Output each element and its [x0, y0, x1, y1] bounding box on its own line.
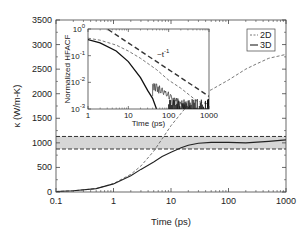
legend: 2D3D	[247, 29, 275, 51]
x-tick-label: 0.1	[50, 196, 63, 206]
inset-y-tick-label: 100	[73, 23, 86, 34]
legend-label-2d: 2D	[260, 30, 272, 40]
x-tick-label: 1000	[276, 196, 296, 206]
x-axis-title: Time (ps)	[151, 216, 191, 227]
inset-y-tick-label: 10-3	[71, 103, 86, 114]
x-tick-label: 100	[221, 196, 236, 206]
inset-y-axis-title: Normalized HFACF	[63, 34, 72, 103]
y-tick-label: 2000	[32, 89, 52, 99]
y-tick-label: 500	[37, 162, 52, 172]
y-tick-label: 0	[47, 187, 52, 197]
inset-x-axis-title: Time (ps)	[132, 119, 166, 128]
inset-x-tick-label: 1000	[200, 111, 218, 120]
y-axis-title: κ (W/m-K)	[11, 85, 22, 128]
y-tick-label: 3000	[32, 40, 52, 50]
x-tick-label: 10	[166, 196, 176, 206]
chart: 0.11101001000050010001500200025003000350…	[0, 0, 308, 233]
x-tick-label: 1	[111, 196, 116, 206]
inset-frame	[88, 29, 209, 109]
y-tick-label: 1500	[32, 113, 52, 123]
inset-y-tick-label: 10-2	[71, 76, 86, 87]
inset-y-tick-label: 10-1	[71, 50, 86, 61]
y-tick-label: 2500	[32, 64, 52, 74]
legend-label-3d: 3D	[260, 40, 272, 50]
inset-x-tick-label: 1	[86, 111, 91, 120]
inset-plot: 110100100010-310-210-1100Normalized HFAC…	[63, 16, 218, 128]
y-tick-label: 1000	[32, 138, 52, 148]
y-tick-label: 3500	[32, 15, 52, 25]
